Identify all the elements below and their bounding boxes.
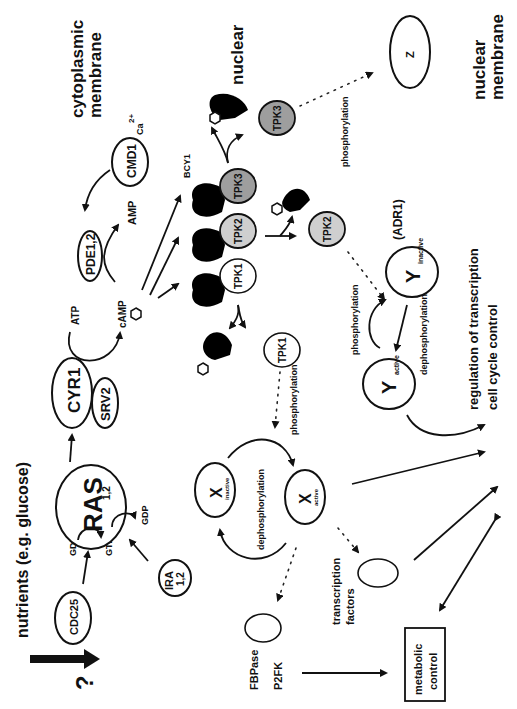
camp-to-tpk3-arrow: [142, 196, 180, 290]
svg-text:Y: Y: [378, 380, 400, 394]
calcium-label: Ca: [135, 123, 145, 135]
transcription-factors-node: [358, 559, 398, 587]
dephosphorylation-x-label: dephosphorylation: [256, 469, 266, 550]
transcription-factors-to-regulation-arrow: [414, 487, 497, 560]
amp-label: AMP: [126, 201, 138, 225]
y-dephosphorylation-arrow: [396, 305, 407, 350]
fbpase-label: FBPase: [248, 650, 260, 690]
camp-label: cAMP: [117, 300, 128, 328]
transcription-factors-label-line1: transcription: [330, 557, 342, 625]
nutrients-label: nutrients (e.g. glucose): [14, 462, 31, 638]
svg-text:membrane: membrane: [86, 32, 105, 118]
dephosphorylation-y-label: dephosphorylation: [419, 294, 429, 375]
svg-text:TPK1: TPK1: [233, 263, 244, 289]
bcy1-tpk1-complex: TPK1: [192, 259, 256, 307]
x-phosphorylation-arrow: [228, 440, 293, 465]
tpk3-dissociation-arrow: [227, 135, 242, 163]
tpk1-free-node: TPK1: [264, 333, 300, 367]
cdc25-node: CDC25: [55, 592, 91, 644]
svg-text:CMD1: CMD1: [125, 144, 139, 178]
regulation-metabolic-bidirectional-arrow: [440, 520, 495, 610]
svg-text:TPK2: TPK2: [322, 216, 333, 242]
camp-to-amp-arrow: [104, 225, 118, 282]
svg-text:control: control: [427, 653, 439, 690]
cdc25-to-ras-arrow: [83, 552, 88, 584]
x-to-transcription-factors-dotted-arrow: [338, 528, 358, 552]
tpk2-regulatory-release-arrow: [280, 217, 292, 236]
svg-text:CYR1: CYR1: [65, 368, 84, 413]
phosphorylation-y-label: phosphorylation: [350, 285, 360, 356]
x-inactive-node: X inactive: [195, 463, 235, 517]
svg-text:metabolic: metabolic: [412, 644, 424, 695]
y-inactive-node: Y inactive: [386, 238, 438, 297]
svg-text:nuclear: nuclear: [228, 24, 247, 85]
regulation-label-line1: regulation of transcription: [466, 248, 481, 410]
svg-text:active: active: [313, 488, 319, 506]
phosphorylation-x-label: phosphorylation: [289, 365, 299, 436]
gdp-right-label: GDP: [140, 505, 150, 525]
svg-text:SRV2: SRV2: [98, 387, 113, 421]
calcium-superscript: 2+: [127, 114, 136, 123]
bcy1-camp-free-2: [272, 189, 310, 215]
adr1-label: (ADR1): [391, 199, 405, 240]
svg-text:1,2: 1,2: [101, 486, 112, 500]
z-node: Z: [390, 16, 430, 88]
pde-node: PDE1,2: [78, 231, 102, 281]
bcy1-tpk3-complex: TPK3: [192, 169, 256, 217]
tpk3-to-z-dotted-arrow: [300, 73, 372, 106]
p2fk-label: P2FK: [272, 662, 284, 690]
bcy1-label: BCY1: [182, 154, 192, 178]
x-to-regulation-arrow: [352, 452, 484, 484]
bcy1-tpk2-complex: TPK2: [192, 214, 256, 262]
x-active-node: X active: [285, 470, 325, 524]
x-to-fbpase-dotted-arrow: [278, 548, 296, 600]
tpk2-free-node: TPK2: [309, 212, 345, 246]
atp-label: ATP: [70, 305, 81, 325]
svg-text:1,2: 1,2: [175, 572, 186, 586]
metabolic-control-box: metabolic control: [405, 628, 445, 701]
transcription-factors-label-line2: factors: [344, 588, 356, 625]
nuclear-membrane-line2: membrane: [488, 14, 507, 100]
y-phosphorylation-arrow: [369, 300, 385, 348]
nuclear-membrane-line1: nuclear: [470, 39, 489, 100]
svg-text:Z: Z: [404, 51, 416, 58]
svg-text:cytoplasmic: cytoplasmic: [68, 20, 87, 118]
cmd1-node: CMD1: [112, 138, 148, 186]
x-dephosphorylation-arrow: [220, 530, 286, 559]
phosphorylation-z-label: phosphorylation: [340, 97, 350, 168]
tpk1-regulatory-release-arrow: [230, 305, 238, 328]
tpk1-to-x-dotted-arrow: [275, 372, 280, 427]
ras-node: RAS 1,2: [56, 465, 126, 549]
camp-to-tpk1-arrow: [158, 284, 178, 298]
tpk3-free-node: TPK3: [259, 101, 295, 135]
svg-text:TPK1: TPK1: [277, 337, 288, 363]
svg-text:X: X: [297, 493, 314, 504]
svg-text:TPK3: TPK3: [233, 173, 244, 199]
svg-text:X: X: [208, 487, 225, 498]
nutrients-arrow-head: [84, 649, 100, 669]
svg-text:IRA: IRA: [163, 571, 175, 590]
nutrients-arrow-shaft: [30, 655, 88, 663]
tpk3-regulatory-release-arrow: [212, 128, 228, 163]
question-mark: ?: [71, 675, 98, 690]
ira-node: IRA 1,2: [159, 560, 191, 596]
nuclear-membrane-label: nuclear: [228, 24, 247, 85]
svg-text:TPK3: TPK3: [272, 105, 283, 131]
fbpase-node: [245, 614, 281, 642]
srv2-node: SRV2: [92, 378, 118, 428]
atp-to-camp-arrow: [69, 332, 120, 361]
ira-to-ras-arrow: [130, 540, 148, 561]
svg-text:Y: Y: [402, 269, 424, 283]
svg-text:inactive: inactive: [224, 477, 230, 500]
svg-text:RAS: RAS: [78, 477, 108, 532]
bcy1-camp-free-3: [210, 94, 248, 124]
svg-text:PDE1,2: PDE1,2: [84, 233, 98, 275]
svg-text:inactive: inactive: [417, 238, 424, 264]
y-active-node: Y active: [363, 355, 415, 409]
svg-text:TPK2: TPK2: [233, 218, 244, 244]
camp-hexagon-icon: [131, 308, 141, 320]
cyr1-node: CYR1: [52, 358, 92, 428]
svg-text:CDC25: CDC25: [68, 599, 80, 635]
svg-text:active: active: [393, 355, 400, 375]
ras-to-cyr1-arrow: [70, 435, 72, 462]
